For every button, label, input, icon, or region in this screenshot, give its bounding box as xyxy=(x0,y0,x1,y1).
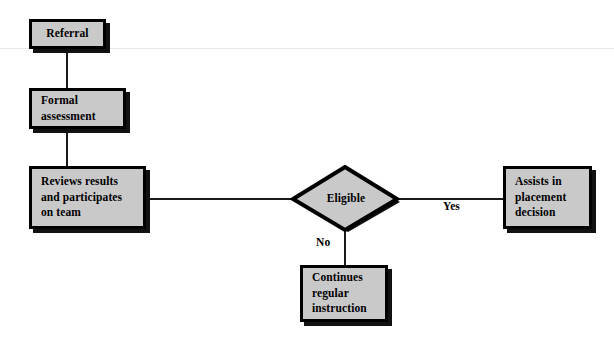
node-assists-in-placement-decision[interactable]: Assists in placement decision xyxy=(503,166,592,229)
edge-label-yes: Yes xyxy=(443,200,460,212)
node-formal-assessment[interactable]: Formal assessment xyxy=(29,88,126,129)
node-eligible-decision[interactable]: Eligible xyxy=(289,165,401,233)
node-formal-assessment-line-1: Formal xyxy=(41,93,78,109)
flowchart-canvas: Referral Formal assessment Reviews resul… xyxy=(0,0,614,342)
node-reviews-results[interactable]: Reviews results and participates on team xyxy=(29,166,146,229)
node-continues-regular-instruction[interactable]: Continues regular instruction xyxy=(300,265,388,322)
node-reviews-results-line-3: on team xyxy=(41,205,81,221)
connector-referral-to-formal-assessment xyxy=(66,48,68,90)
node-referral-line-1: Referral xyxy=(46,26,88,42)
node-continues-line-1: Continues xyxy=(312,270,363,286)
node-continues-line-2: regular xyxy=(312,286,349,302)
node-referral[interactable]: Referral xyxy=(29,19,106,49)
edge-label-no: No xyxy=(316,236,330,248)
connector-eligible-to-continues xyxy=(344,230,346,266)
node-reviews-results-line-2: and participates xyxy=(41,190,122,206)
node-assists-line-2: placement xyxy=(515,190,566,206)
node-assists-line-3: decision xyxy=(515,205,555,221)
node-continues-line-3: instruction xyxy=(312,301,367,317)
node-eligible-label: Eligible xyxy=(327,192,366,204)
node-formal-assessment-line-2: assessment xyxy=(41,109,96,125)
node-reviews-results-line-1: Reviews results xyxy=(41,174,118,190)
node-assists-line-1: Assists in xyxy=(515,174,562,190)
connector-formal-assessment-to-reviews xyxy=(66,128,68,168)
connector-reviews-to-eligible xyxy=(145,198,293,200)
